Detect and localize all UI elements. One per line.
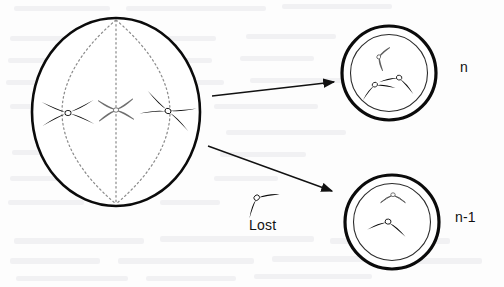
- label-ploidy-n: n: [460, 59, 468, 75]
- daughter-cell-aneuploid: [345, 175, 439, 269]
- figure-root: n n-1 Lost: [0, 0, 504, 287]
- lost-chromosome: [241, 183, 280, 220]
- label-ploidy-n-minus-1: n-1: [455, 209, 476, 225]
- arrow-to-aneuploid-cell: [208, 146, 332, 191]
- label-lost-chromosome: Lost: [249, 217, 276, 233]
- nuclear-envelope-inner: [351, 35, 428, 112]
- cell-division-diagram: [0, 0, 504, 287]
- arrow-to-normal-cell: [212, 82, 334, 96]
- daughter-cell-normal: [342, 26, 436, 120]
- division-arrows: [208, 82, 334, 191]
- dividing-cell: [32, 18, 200, 206]
